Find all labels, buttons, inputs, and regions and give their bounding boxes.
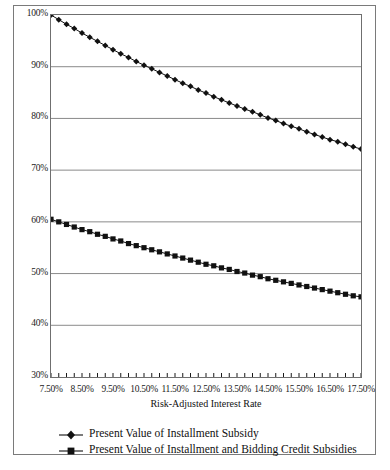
figure-frame: 30%40%50%60%70%80%90%100% 7.50%8.50%9.50…	[13, 5, 376, 455]
legend-square-marker-icon	[58, 443, 84, 455]
data-point-marker	[234, 269, 239, 274]
data-point-marker	[242, 106, 248, 112]
data-point-marker	[79, 30, 85, 36]
data-point-marker	[289, 281, 294, 286]
legend-item-installment-and-bidding-credit-subsidies: Present Value of Installment and Bidding…	[58, 442, 358, 456]
data-point-marker	[203, 262, 208, 267]
x-tick-label: 7.50%	[39, 384, 62, 394]
data-point-marker	[64, 21, 70, 27]
x-tick-label: 15.50%	[285, 384, 313, 394]
y-tick-label: 30%	[14, 371, 48, 381]
data-point-marker	[265, 115, 271, 121]
data-point-marker	[304, 129, 310, 135]
legend-diamond-marker-icon	[58, 427, 84, 439]
data-point-marker	[141, 62, 147, 68]
chart-legend: Present Value of Installment Subsidy Pre…	[58, 426, 358, 458]
data-point-marker	[157, 69, 163, 75]
y-tick-label: 70%	[14, 164, 48, 174]
data-point-marker	[219, 97, 225, 103]
data-point-marker	[296, 126, 302, 132]
legend-label-installment-and-bidding-credit-subsidies: Present Value of Installment and Bidding…	[89, 443, 357, 456]
y-tick-label: 80%	[14, 112, 48, 122]
data-point-marker	[56, 219, 61, 224]
x-tick-label: 10.50%	[130, 384, 158, 394]
x-axis-title: Risk-Adjusted Interest Rate	[50, 398, 362, 410]
data-point-marker	[64, 222, 69, 227]
data-point-marker	[157, 249, 162, 254]
data-point-marker	[180, 255, 185, 260]
data-point-marker	[195, 87, 201, 93]
x-tick-label: 12.50%	[192, 384, 220, 394]
data-point-marker	[110, 47, 116, 53]
data-point-marker	[165, 251, 170, 256]
data-point-marker	[72, 224, 77, 229]
data-point-marker	[87, 34, 93, 40]
data-point-marker	[234, 103, 240, 109]
y-tick-label: 90%	[14, 61, 48, 71]
data-point-marker	[288, 123, 294, 129]
data-point-marker	[180, 80, 186, 86]
data-point-marker	[133, 59, 139, 65]
data-point-marker	[343, 292, 348, 297]
data-point-marker	[141, 245, 146, 250]
data-point-marker	[196, 260, 201, 265]
x-tick-label: 8.50%	[70, 384, 93, 394]
data-point-marker	[126, 241, 131, 246]
y-tick-label: 60%	[14, 216, 48, 226]
data-point-marker	[242, 270, 247, 275]
series-1	[51, 15, 361, 152]
data-point-marker	[172, 253, 177, 258]
data-point-marker	[51, 217, 54, 222]
data-point-marker	[118, 238, 123, 243]
series-line	[51, 219, 361, 297]
data-point-marker	[188, 258, 193, 263]
data-point-marker	[327, 289, 332, 294]
data-point-marker	[358, 146, 361, 152]
data-point-marker	[312, 131, 318, 137]
data-point-marker	[343, 141, 349, 147]
y-tick-label: 40%	[14, 319, 48, 329]
data-point-marker	[273, 278, 278, 283]
y-tick-label: 100%	[14, 9, 48, 19]
x-tick-label: 14.50%	[254, 384, 282, 394]
data-point-marker	[95, 38, 101, 44]
data-point-marker	[350, 144, 356, 150]
y-tick-label: 50%	[14, 268, 48, 278]
data-point-marker	[335, 290, 340, 295]
plot-area	[50, 14, 362, 378]
data-point-marker	[250, 109, 256, 115]
y-axis-tick-labels: 30%40%50%60%70%80%90%100%	[14, 14, 48, 378]
legend-label-installment-subsidy: Present Value of Installment Subsidy	[89, 427, 259, 440]
data-point-marker	[319, 134, 325, 140]
x-tick-label: 11.50%	[161, 384, 188, 394]
data-point-marker	[87, 229, 92, 234]
data-point-marker	[126, 54, 132, 60]
data-point-marker	[226, 100, 232, 106]
data-point-marker	[134, 243, 139, 248]
data-point-marker	[281, 279, 286, 284]
data-point-marker	[102, 43, 108, 49]
chart-svg	[51, 15, 361, 377]
data-point-marker	[258, 274, 263, 279]
data-point-marker	[188, 83, 194, 89]
data-point-marker	[351, 293, 356, 298]
data-point-marker	[203, 90, 209, 96]
x-tick-label: 17.50%	[347, 384, 375, 394]
data-point-marker	[172, 77, 178, 83]
series-line	[51, 15, 361, 149]
data-point-marker	[79, 227, 84, 232]
data-point-marker	[164, 73, 170, 79]
x-tick-label: 13.50%	[223, 384, 251, 394]
data-point-marker	[281, 121, 287, 127]
data-point-marker	[320, 287, 325, 292]
data-point-marker	[335, 139, 341, 145]
data-point-marker	[358, 294, 361, 299]
data-point-marker	[56, 17, 62, 23]
data-point-marker	[118, 51, 124, 57]
data-point-marker	[149, 247, 154, 252]
data-point-marker	[103, 234, 108, 239]
data-point-marker	[71, 25, 77, 31]
data-point-marker	[211, 263, 216, 268]
data-point-marker	[227, 267, 232, 272]
x-axis-tick-labels: 7.50%8.50%9.50%10.50%11.50%12.50%13.50%1…	[50, 384, 362, 398]
